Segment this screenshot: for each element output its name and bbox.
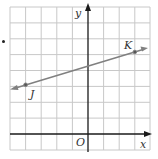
point-j	[24, 83, 28, 87]
origin-label: O	[76, 136, 85, 149]
point-k-label: K	[123, 39, 133, 52]
point-k	[133, 50, 137, 54]
coordinate-graph: y x O J K	[0, 0, 158, 159]
x-axis-label: x	[140, 138, 147, 151]
line-arrow-left-icon	[10, 85, 19, 90]
line-jk	[10, 47, 148, 91]
grid	[10, 7, 150, 150]
x-axis-arrow-icon	[144, 131, 152, 137]
axes	[10, 3, 152, 152]
point-j-label: J	[28, 88, 35, 101]
y-axis-label: y	[74, 7, 82, 20]
